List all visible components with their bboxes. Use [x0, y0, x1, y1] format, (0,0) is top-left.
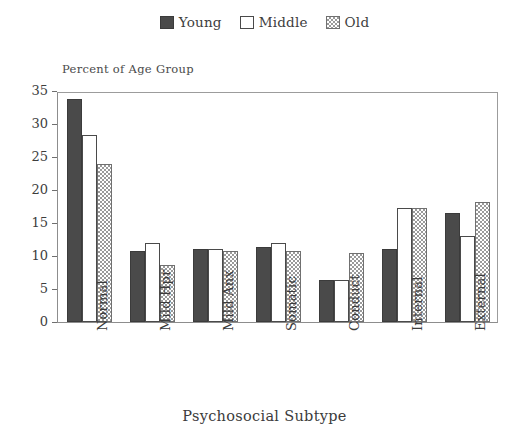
- chart-legend: Young Middle Old: [0, 14, 529, 30]
- y-axis-tick-mark: [52, 124, 57, 125]
- bar-young-conduct: [319, 280, 334, 322]
- chart-figure: Young Middle Old Percent of Age Group 05…: [0, 0, 529, 443]
- legend-swatch-young-icon: [160, 16, 174, 29]
- y-axis-tick-label: 10: [31, 248, 48, 263]
- y-axis-tick-mark: [52, 322, 57, 323]
- y-axis-tick-label: 0: [40, 314, 48, 329]
- legend-item-young: Young: [160, 14, 222, 30]
- y-axis-tick-label: 30: [31, 116, 48, 131]
- y-axis-tick-mark: [52, 91, 57, 92]
- plot-area: [57, 92, 498, 323]
- legend-item-middle: Middle: [240, 14, 308, 30]
- legend-item-old: Old: [326, 14, 370, 30]
- y-axis-tick-mark: [52, 256, 57, 257]
- x-axis-label-mild-hpr: Mild Hpr: [158, 269, 173, 331]
- legend-swatch-old-icon: [326, 16, 340, 29]
- legend-swatch-middle-icon: [240, 16, 254, 29]
- legend-label-middle: Middle: [259, 14, 308, 30]
- x-axis-label-normal: Normal: [95, 280, 110, 331]
- y-axis-tick-mark: [52, 190, 57, 191]
- x-axis-label-somatic: Somatic: [284, 276, 299, 331]
- x-axis-label-internal: Internal: [410, 276, 425, 331]
- y-axis-tick-label: 20: [31, 182, 48, 197]
- x-axis-label-mild-anx: Mild Anx: [221, 270, 236, 331]
- bar-young-mild-anx: [193, 249, 208, 322]
- bar-young-internal: [382, 249, 397, 322]
- x-axis-label-external: External: [473, 273, 488, 331]
- y-axis-tick-label: 25: [31, 149, 48, 164]
- x-axis-title: Psychosocial Subtype: [0, 408, 529, 424]
- legend-label-young: Young: [179, 14, 222, 30]
- bar-young-mild-hpr: [130, 251, 145, 322]
- bar-young-normal: [67, 99, 82, 322]
- y-axis-tick-mark: [52, 157, 57, 158]
- y-axis-tick-label: 15: [31, 215, 48, 230]
- legend-label-old: Old: [345, 14, 370, 30]
- x-axis-label-conduct: Conduct: [347, 274, 362, 331]
- y-axis-tick-mark: [52, 223, 57, 224]
- y-axis-title: Percent of Age Group: [62, 62, 194, 76]
- y-axis-tick-label: 35: [31, 83, 48, 98]
- bar-young-external: [445, 213, 460, 322]
- y-axis-tick-label: 5: [40, 281, 48, 296]
- y-axis-tick-mark: [52, 289, 57, 290]
- bar-young-somatic: [256, 247, 271, 322]
